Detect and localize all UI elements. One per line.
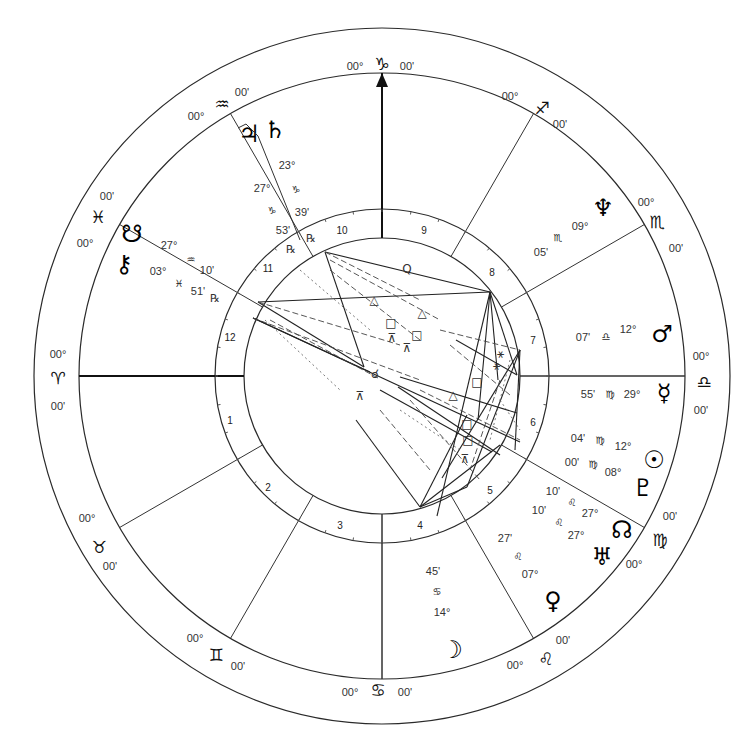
mercury-icon: ☿ <box>657 379 672 407</box>
libra-cusp-minute: 00' <box>694 404 708 416</box>
pisces-cusp-minute: 00' <box>100 190 114 202</box>
planet-venus[interactable]: ♀07°♌27' <box>498 532 562 615</box>
planet-neptune[interactable]: ♆09°♏05' <box>534 194 614 258</box>
chiron-sign-icon: ♓ <box>175 278 184 289</box>
sun-icon: ☉ <box>643 446 665 474</box>
mercury-degree: 29° <box>624 388 641 400</box>
planet-pluto[interactable]: ♇08°♍00' <box>565 456 654 502</box>
aspect-line-minor <box>270 320 378 378</box>
neptune-minute: 05' <box>534 246 548 258</box>
north-node-minute: 10' <box>546 485 560 497</box>
house-number-8: 8 <box>489 267 495 278</box>
moon-minute: 45' <box>426 565 440 577</box>
aspect-line-minor <box>258 302 400 345</box>
neptune-degree: 09° <box>572 220 589 232</box>
degree-tick <box>508 481 510 483</box>
aspect-line-weak <box>265 320 340 390</box>
aspect-line-major <box>356 420 420 507</box>
planet-mars[interactable]: ♂12°♎07' <box>576 320 673 348</box>
house-number-9: 9 <box>421 225 427 236</box>
virgo-cusp-degree: 00° <box>626 558 643 570</box>
moon-icon: ☽ <box>441 636 463 664</box>
south-node-icon: ☋ <box>121 220 142 248</box>
aspect-symbol-icon: Q <box>402 262 411 276</box>
aspect-symbol-icon: ⊼ <box>461 452 470 466</box>
aspect-symbol-icon: △ <box>448 388 458 402</box>
capricorn-sign-icon: ♑ <box>374 54 389 74</box>
degree-tick <box>353 538 354 541</box>
house-number-11: 11 <box>263 263 274 274</box>
south-node-sign-icon: ♒ <box>187 254 196 265</box>
degree-tick <box>410 212 411 215</box>
planet-north-node[interactable]: ☊27°♌10' <box>546 485 633 544</box>
degree-tick <box>524 458 527 460</box>
mars-icon: ♂ <box>651 320 673 348</box>
planet-uranus[interactable]: ♅27°♌10' <box>532 504 613 571</box>
gemini-cusp-minute: 00' <box>231 660 245 672</box>
house-number-1: 1 <box>227 415 233 426</box>
degree-tick <box>254 269 256 271</box>
pluto-sign-icon: ♍ <box>589 459 598 470</box>
degree-tick <box>536 432 539 433</box>
mercury-minute: 55' <box>581 388 595 400</box>
scorpio-cusp-degree: 00° <box>638 196 655 208</box>
taurus-cusp-minute: 00' <box>103 560 117 572</box>
degree-tick <box>225 432 228 433</box>
moon-degree: 14° <box>434 606 451 618</box>
uranus-minute: 10' <box>532 504 546 516</box>
house-numbers: 109876543211211 <box>224 225 536 531</box>
taurus-cusp-degree: 00° <box>79 512 96 524</box>
planet-chiron[interactable]: ⚷03°♓51'℞ <box>115 250 220 304</box>
chiron-retrograde-icon: ℞ <box>210 292 220 304</box>
house-cusp-line <box>451 496 534 639</box>
capricorn-cusp-minute: 00' <box>400 60 414 72</box>
degree-tick <box>218 404 221 405</box>
aquarius-cusp-minute: 00' <box>235 86 249 98</box>
neptune-sign-icon: ♏ <box>554 232 563 243</box>
pluto-icon: ♇ <box>632 474 654 502</box>
natal-chart-wheel: Q△△□□⊼⊼⚹⚹□△□□⊼⊼☌ ♑00°00'♐00°00'♏00°00'♎0… <box>0 0 753 745</box>
degree-tick <box>275 248 277 250</box>
aspect-line-minor <box>380 410 430 470</box>
house-number-7: 7 <box>530 335 536 346</box>
uranus-sign-icon: ♌ <box>555 517 564 528</box>
degree-tick <box>225 319 228 320</box>
north-node-icon: ☊ <box>611 516 632 544</box>
house-cusp-line <box>502 225 645 308</box>
cancer-sign-icon: ♋ <box>370 680 385 700</box>
saturn-sign-icon: ♑ <box>292 184 301 195</box>
south-node-degree: 27° <box>161 239 178 251</box>
degree-tick <box>325 530 326 533</box>
chiron-icon: ⚷ <box>115 250 133 278</box>
degree-tick <box>438 530 439 533</box>
jupiter-degree: 27° <box>254 182 271 194</box>
planet-mercury[interactable]: ☿29°♍55' <box>581 379 672 407</box>
libra-sign-icon: ♎ <box>696 372 711 392</box>
planet-moon[interactable]: ☽14°♋45' <box>426 565 463 664</box>
house-number-2: 2 <box>265 482 271 493</box>
degree-tick <box>218 347 221 348</box>
sun-sign-icon: ♍ <box>596 435 605 446</box>
planet-south-node[interactable]: ☋27°♒10' <box>121 220 214 276</box>
degree-tick <box>299 231 301 234</box>
pisces-sign-icon: ♓ <box>90 207 105 227</box>
scorpio-sign-icon: ♏ <box>649 212 664 232</box>
degree-tick <box>237 293 240 295</box>
aquarius-cusp-degree: 00° <box>188 110 205 122</box>
aspect-symbol-icon: □ <box>462 433 473 447</box>
aspect-symbol-icon: ⊼ <box>403 341 412 355</box>
north-node-degree: 27° <box>582 507 599 519</box>
leo-sign-icon: ♌ <box>538 649 553 669</box>
cancer-cusp-minute: 00' <box>398 686 412 698</box>
house-number-12: 12 <box>224 332 236 343</box>
leo-cusp-degree: 00° <box>507 659 524 671</box>
sun-degree: 12° <box>615 440 632 452</box>
taurus-sign-icon: ♉ <box>91 537 106 557</box>
degree-tick <box>464 518 466 521</box>
saturn-degree: 23° <box>279 159 296 171</box>
jupiter-retrograde-icon: ℞ <box>286 243 296 255</box>
sagittarius-sign-icon: ♐ <box>534 98 549 118</box>
venus-degree: 07° <box>522 568 539 580</box>
house-cusp-line <box>231 496 314 639</box>
leo-cusp-minute: 00' <box>556 634 570 646</box>
